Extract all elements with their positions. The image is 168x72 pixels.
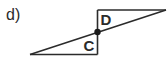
diagram-canvas: d) D C xyxy=(0,0,168,72)
angle-label-d: D xyxy=(101,11,112,28)
intersection-point xyxy=(94,29,100,35)
vertical-angles-figure: D C xyxy=(0,0,168,72)
angle-label-c: C xyxy=(84,37,95,54)
